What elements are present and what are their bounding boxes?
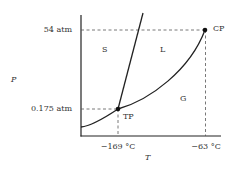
y-tick-54-atm: 54 atm: [20, 25, 72, 35]
sublimation-curve: [81, 109, 118, 127]
phase-diagram: 54 atm 0.175 atm P T −169 °C −63 °C S L …: [0, 0, 234, 172]
melting-curve: [118, 13, 143, 109]
y-tick-0175-atm: 0.175 atm: [14, 104, 72, 114]
region-solid-label: S: [102, 45, 107, 55]
triple-point-label: TP: [123, 112, 134, 122]
region-liquid-label: L: [160, 45, 165, 55]
x-axis-label: T: [145, 153, 150, 163]
region-gas-label: G: [180, 94, 186, 104]
x-tick-minus-169: −169 °C: [98, 142, 138, 152]
vaporization-curve: [118, 30, 205, 109]
x-tick-minus-63: −63 °C: [186, 142, 226, 152]
y-axis-label: P: [11, 75, 16, 85]
triple-point-marker: [116, 107, 121, 112]
critical-point-label: CP: [213, 24, 225, 34]
critical-point-marker: [203, 28, 208, 33]
